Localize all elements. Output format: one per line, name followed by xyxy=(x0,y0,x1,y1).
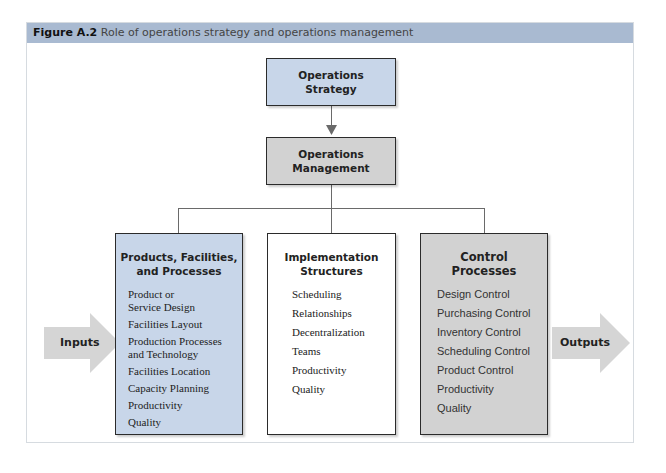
products-item: Capacity Planning xyxy=(128,382,242,395)
management-line2: Management xyxy=(267,161,395,175)
products-item: Facilities Layout xyxy=(128,318,242,331)
management-line1: Operations xyxy=(267,147,395,161)
implementation-structures-node: Implementation Structures Scheduling Rel… xyxy=(267,233,396,435)
control-item: Productivity xyxy=(437,383,547,396)
products-item: Productivity xyxy=(128,399,242,412)
control-item: Purchasing Control xyxy=(437,307,547,320)
strategy-line2: Strategy xyxy=(267,82,395,96)
products-item: Production Processes and Technology xyxy=(128,335,242,361)
implementation-item: Teams xyxy=(292,345,395,358)
connector-left-down xyxy=(178,208,179,234)
control-processes-node: Control Processes Design Control Purchas… xyxy=(420,233,548,435)
control-item: Quality xyxy=(437,402,547,415)
implementation-item: Scheduling xyxy=(292,288,395,301)
implementation-item: Quality xyxy=(292,383,395,396)
implementation-item: Relationships xyxy=(292,307,395,320)
control-title1: Control xyxy=(421,250,547,264)
products-item: Product or Service Design xyxy=(128,288,242,314)
control-item: Scheduling Control xyxy=(437,345,547,358)
figure-caption: Role of operations strategy and operatio… xyxy=(101,26,414,39)
figure-label: Figure A.2 xyxy=(33,26,97,39)
connector-management-down xyxy=(331,184,332,234)
arrowhead-icon xyxy=(326,125,337,135)
figure-title: Figure A.2 Role of operations strategy a… xyxy=(33,26,413,39)
connector-right-down xyxy=(484,208,485,234)
control-title2: Processes xyxy=(421,264,547,278)
implementation-item: Productivity xyxy=(292,364,395,377)
products-title1: Products, Facilities, xyxy=(116,250,242,264)
operations-management-node: Operations Management xyxy=(266,137,396,185)
outputs-label: Outputs xyxy=(560,336,610,349)
control-item: Design Control xyxy=(437,288,547,301)
implementation-item: Decentralization xyxy=(292,326,395,339)
implementation-title1: Implementation xyxy=(268,250,395,264)
operations-strategy-node: Operations Strategy xyxy=(266,58,396,106)
products-title2: and Processes xyxy=(116,264,242,278)
control-item: Inventory Control xyxy=(437,326,547,339)
control-item: Product Control xyxy=(437,364,547,377)
strategy-line1: Operations xyxy=(267,68,395,82)
products-facilities-node: Products, Facilities, and Processes Prod… xyxy=(115,233,243,435)
implementation-title2: Structures xyxy=(268,264,395,278)
inputs-label: Inputs xyxy=(60,336,99,349)
figure-header: Figure A.2 Role of operations strategy a… xyxy=(27,23,633,43)
connector-horizontal xyxy=(178,208,485,209)
products-item: Facilities Location xyxy=(128,365,242,378)
products-item: Quality xyxy=(128,416,242,429)
